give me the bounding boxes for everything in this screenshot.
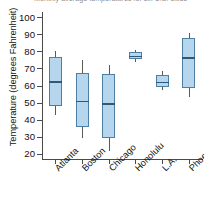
lower-whisker <box>82 127 83 139</box>
y-tick-label-wrap: 20 <box>0 149 35 158</box>
y-tick-mark <box>37 68 42 69</box>
box-iqr <box>182 38 195 88</box>
y-tick-label-wrap: 100 <box>0 13 35 22</box>
x-tick-label-la: L.A. <box>160 154 179 173</box>
median-line <box>129 56 142 57</box>
median-line <box>49 81 62 82</box>
median-line <box>102 103 115 104</box>
y-tick-mark <box>37 51 42 52</box>
y-tick-label: 20 <box>1 149 35 158</box>
box-iqr <box>102 74 115 139</box>
y-tick-label-wrap: 30 <box>0 132 35 141</box>
lower-whisker <box>109 138 110 151</box>
lower-whisker <box>135 59 136 62</box>
y-tick-mark <box>37 17 42 18</box>
y-tick-label-wrap: 40 <box>0 115 35 124</box>
y-tick-label: 80 <box>1 47 35 56</box>
y-tick-mark <box>37 137 42 138</box>
y-tick-label: 50 <box>1 98 35 107</box>
y-tick-label: 30 <box>1 132 35 141</box>
median-line <box>156 82 169 83</box>
y-tick-label: 60 <box>1 81 35 90</box>
y-tick-mark <box>37 86 42 87</box>
y-tick-label-wrap: 80 <box>0 47 35 56</box>
x-tick-label-phoenix: Phoenix <box>187 143 204 174</box>
lower-whisker <box>55 106 56 115</box>
upper-whisker <box>109 65 110 74</box>
y-tick-label: 70 <box>1 64 35 73</box>
y-tick-mark <box>37 120 42 121</box>
y-tick-label-wrap: 70 <box>0 64 35 73</box>
upper-whisker <box>82 60 83 73</box>
y-tick-mark <box>37 154 42 155</box>
y-axis-title: Temperature (degrees Fahrenheit) <box>8 2 18 152</box>
y-tick-label: 90 <box>1 30 35 39</box>
y-tick-label: 40 <box>1 115 35 124</box>
median-line <box>182 57 195 58</box>
box-iqr <box>76 73 89 127</box>
box-plot-chart: Monthly average temperatures for six U.S… <box>0 0 204 211</box>
median-line <box>76 101 89 102</box>
x-tick-label-honolulu: Honolulu <box>133 140 166 173</box>
y-tick-mark <box>37 103 42 104</box>
y-tick-label-wrap: 50 <box>0 98 35 107</box>
y-tick-label-wrap: 90 <box>0 30 35 39</box>
y-tick-label: 100 <box>1 13 35 22</box>
y-tick-mark <box>37 34 42 35</box>
y-tick-label-wrap: 60 <box>0 81 35 90</box>
chart-title: Monthly average temperatures for six U.S… <box>34 0 204 3</box>
y-axis-line <box>42 12 43 160</box>
lower-whisker <box>162 87 163 90</box>
lower-whisker <box>189 88 190 97</box>
x-tick-label-chicago: Chicago <box>107 142 138 173</box>
